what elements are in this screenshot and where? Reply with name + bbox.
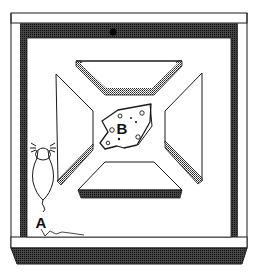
maze-diagram: B A	[0, 0, 262, 274]
goal-label: B	[117, 120, 128, 137]
right-wall	[231, 23, 238, 237]
top-marker-dot	[110, 29, 117, 36]
start-label: A	[36, 214, 47, 231]
